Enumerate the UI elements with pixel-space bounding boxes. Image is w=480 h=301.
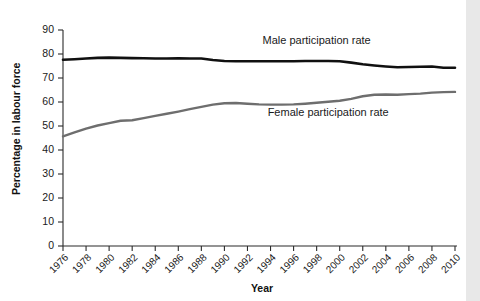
y-axis-title: Percentage in labour force bbox=[10, 62, 22, 195]
y-tick-label-40: 40 bbox=[42, 143, 54, 155]
series-label-male: Male participation rate bbox=[263, 34, 371, 46]
x-tick-label-1996: 1996 bbox=[277, 251, 301, 275]
y-axis-tick-labels: 0102030405060708090 bbox=[42, 23, 54, 251]
y-tick-label-10: 10 bbox=[42, 215, 54, 227]
x-tick-label-1984: 1984 bbox=[139, 251, 163, 275]
x-tick-label-2002: 2002 bbox=[347, 251, 371, 275]
y-tick-label-90: 90 bbox=[42, 23, 54, 35]
x-tick-label-1976: 1976 bbox=[47, 251, 71, 275]
y-tick-label-20: 20 bbox=[42, 191, 54, 203]
y-axis-group: 0102030405060708090 bbox=[42, 23, 63, 251]
x-tick-label-1980: 1980 bbox=[93, 251, 117, 275]
y-tick-label-80: 80 bbox=[42, 47, 54, 59]
participation-rate-line-chart: 0102030405060708090 19761978198019821984… bbox=[0, 0, 480, 301]
x-tick-label-2008: 2008 bbox=[416, 251, 440, 275]
y-tick-label-0: 0 bbox=[48, 239, 54, 251]
x-tick-label-2010: 2010 bbox=[439, 251, 463, 275]
series-line-male bbox=[63, 58, 455, 68]
x-axis-ticks bbox=[63, 246, 455, 251]
x-tick-label-2004: 2004 bbox=[370, 251, 394, 275]
x-tick-label-1986: 1986 bbox=[162, 251, 186, 275]
x-tick-label-1982: 1982 bbox=[116, 251, 140, 275]
x-tick-label-1978: 1978 bbox=[70, 251, 94, 275]
x-axis-group: 1976197819801982198419861988199019921994… bbox=[47, 246, 463, 275]
y-tick-label-30: 30 bbox=[42, 167, 54, 179]
x-tick-label-1992: 1992 bbox=[231, 251, 255, 275]
y-tick-label-70: 70 bbox=[42, 71, 54, 83]
chart-page: 0102030405060708090 19761978198019821984… bbox=[0, 0, 480, 301]
x-tick-label-1990: 1990 bbox=[208, 251, 232, 275]
x-axis-title: Year bbox=[251, 282, 273, 294]
series-line-female bbox=[63, 92, 455, 136]
x-tick-label-1998: 1998 bbox=[301, 251, 325, 275]
x-tick-label-2000: 2000 bbox=[324, 251, 348, 275]
series-label-female: Female participation rate bbox=[268, 106, 389, 118]
y-axis-ticks bbox=[58, 30, 63, 246]
x-tick-label-1988: 1988 bbox=[185, 251, 209, 275]
y-tick-label-60: 60 bbox=[42, 95, 54, 107]
x-tick-label-2006: 2006 bbox=[393, 251, 417, 275]
x-axis-tick-labels: 1976197819801982198419861988199019921994… bbox=[47, 251, 463, 275]
y-tick-label-50: 50 bbox=[42, 119, 54, 131]
x-tick-label-1994: 1994 bbox=[254, 251, 278, 275]
